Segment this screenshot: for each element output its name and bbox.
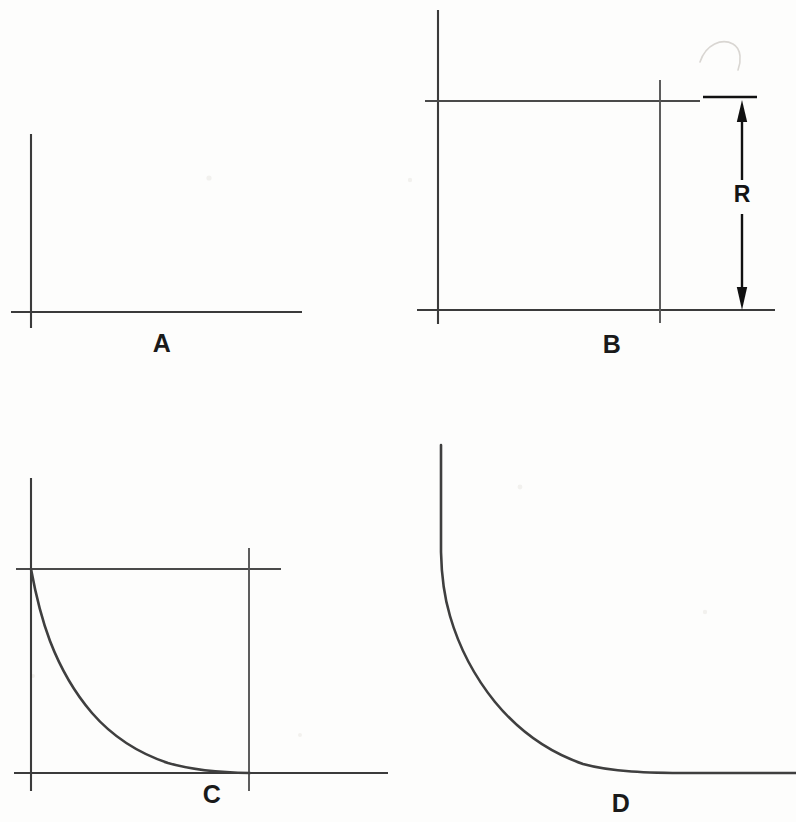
panel-d-label: D: [612, 789, 631, 817]
arrow-head-up-icon: [737, 100, 747, 122]
dimension-label-r: R: [734, 181, 751, 207]
scan-smudge-artifact: [700, 42, 740, 70]
figure-canvas: A R B: [0, 0, 796, 822]
panel-d-decay-curve: [441, 445, 796, 773]
paper-texture: [31, 175, 707, 737]
panel-c-decay-curve: [31, 569, 250, 773]
panel-b-label: B: [603, 330, 622, 358]
figure-root: A R B: [0, 0, 796, 822]
panel-c: C: [14, 478, 388, 808]
arrow-head-down-icon: [737, 287, 747, 310]
panel-a: A: [11, 134, 302, 357]
panel-c-label: C: [203, 780, 222, 808]
panel-a-label: A: [153, 329, 172, 357]
panel-d: D: [441, 445, 796, 817]
dimension-annotation-r: R: [703, 97, 757, 310]
panel-b: R B: [417, 10, 775, 358]
